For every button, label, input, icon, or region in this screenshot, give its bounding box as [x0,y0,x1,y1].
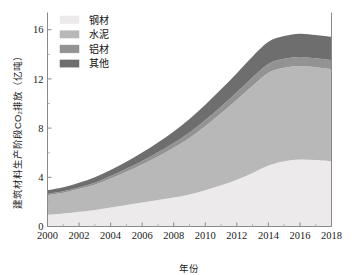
x-axis-title: 年份 [179,263,199,274]
legend-label-钢材: 钢材 [89,14,109,26]
stacked-area-chart: 2000200220042006200820102012201420162018… [0,0,356,275]
y-tick-label: 4 [38,172,44,183]
y-tick-label: 16 [33,24,44,35]
chart-legend: 钢材水泥铝材其他 [60,14,109,70]
x-tick-label: 2018 [321,230,342,241]
x-tick-label: 2014 [258,230,280,241]
legend-label-其他: 其他 [89,57,109,69]
legend-swatch-铝材 [60,45,80,54]
y-tick-label: 0 [38,221,43,232]
legend-swatch-水泥 [60,30,80,38]
x-tick-label: 2004 [100,230,122,241]
x-tick-label: 2016 [289,230,310,241]
legend-label-铝材: 铝材 [89,43,109,55]
legend-label-水泥: 水泥 [89,28,109,40]
legend-swatch-钢材 [60,16,80,25]
y-tick-label: 8 [38,123,43,134]
legend-swatch-其他 [60,59,80,68]
y-axis-title: 建筑材料生产阶段CO₂排放（亿吨） [12,51,23,209]
chart-container: 2000200220042006200820102012201420162018… [0,0,356,275]
x-tick-label: 2006 [132,230,153,241]
x-tick-label: 2002 [69,230,90,241]
x-tick-label: 2010 [195,230,216,241]
y-tick-label: 12 [33,74,44,85]
x-tick-label: 2008 [163,230,184,241]
x-tick-label: 2012 [226,230,247,241]
